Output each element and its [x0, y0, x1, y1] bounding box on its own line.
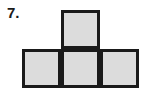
t-polyomino-figure [0, 0, 143, 98]
bottom-middle-square [63, 51, 99, 87]
bottom-right-square [102, 51, 138, 87]
figure-page: 7. [0, 0, 143, 98]
squares-group [24, 12, 138, 87]
bottom-left-square [24, 51, 60, 87]
top-square [63, 12, 99, 48]
t-polyomino-svg [0, 0, 143, 98]
